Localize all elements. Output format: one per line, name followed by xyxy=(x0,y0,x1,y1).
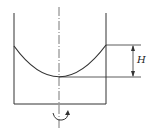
rotation-arrowhead-icon xyxy=(65,110,70,115)
arrow-head-down-icon xyxy=(131,71,135,77)
arrow-head-up-icon xyxy=(131,45,135,51)
height-dimension xyxy=(59,45,141,77)
container xyxy=(14,13,106,104)
rotating-container-diagram xyxy=(0,0,151,131)
height-label: H xyxy=(137,54,146,65)
paraboloid-surface xyxy=(14,45,106,77)
